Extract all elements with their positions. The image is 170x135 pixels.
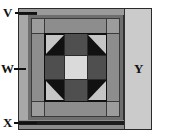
label-y: Y: [134, 62, 143, 75]
sashing-corner-bottom-left: [32, 102, 44, 116]
label-w: W: [1, 62, 14, 75]
label-v: V: [3, 6, 12, 19]
sashing-bar-bottom: [40, 102, 111, 116]
seam-right-panel: [123, 9, 125, 129]
label-x: X: [3, 116, 12, 129]
leader-line-x: [14, 122, 37, 124]
sashing-corner-bottom-right: [107, 102, 119, 116]
sashing-corner-top-left: [32, 19, 44, 33]
seam-block-v1: [64, 34, 65, 101]
seam-sashing-corner-v-left: [44, 18, 45, 33]
patch-corner-top-right-triangle: [88, 35, 106, 54]
seam-sashing-corner-v-left-b: [44, 102, 45, 117]
leader-line-w: [14, 68, 26, 70]
sashing-bar-top: [40, 19, 111, 33]
sashing-bar-left: [32, 33, 44, 102]
sashing-corner-top-right: [107, 19, 119, 33]
patch-bottom-middle: [65, 80, 87, 101]
quilt-block-figure: V W X Y: [0, 0, 170, 135]
seam-block-h1: [45, 55, 106, 56]
patch-left-middle: [45, 56, 64, 79]
patch-corner-bottom-left-triangle: [46, 81, 64, 100]
seam-sashing-corner-v-right: [106, 18, 107, 33]
seam-block-h2: [45, 79, 106, 80]
center-patch: [65, 56, 87, 79]
patch-corner-top-left-triangle: [46, 35, 64, 54]
patch-corner-bottom-right-triangle: [88, 81, 106, 100]
patch-right-middle: [88, 56, 106, 79]
seam-sashing-corner-v-right-b: [106, 102, 107, 117]
leader-line-v: [15, 12, 37, 14]
patch-top-middle: [65, 34, 87, 55]
sashing-bar-right: [107, 33, 119, 102]
seam-block-v2: [87, 34, 88, 101]
